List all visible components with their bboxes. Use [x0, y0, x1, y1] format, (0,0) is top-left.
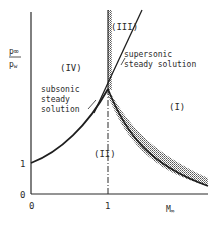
shaded-band-supersonic — [108, 89, 208, 186]
x-tick-zero: 0 — [29, 201, 34, 211]
region-label-III: (III) — [111, 22, 138, 32]
y-tick-zero: 0 — [20, 190, 25, 200]
y-tick-one: 1 — [20, 159, 25, 169]
region-label-II: (II) — [94, 149, 116, 159]
region-label-IV: (IV) — [60, 63, 82, 73]
y-axis-label-denominator: pw — [9, 60, 18, 69]
x-tick-one: 1 — [105, 201, 110, 211]
subsonic-label-line2: steady — [41, 95, 70, 104]
supersonic-label-line1: supersonic — [124, 50, 172, 59]
subsonic-label-line1: subsonic — [41, 85, 80, 94]
y-axis-label-numerator: p∞ — [9, 47, 19, 56]
regime-diagram: p∞ pw 1 0 0 1 M∞ (IV) (III) (II) (I) sub… — [0, 0, 222, 232]
supersonic-label-line2: steady solution — [124, 60, 196, 69]
subsonic-label-line3: solution — [41, 105, 80, 114]
region-label-I: (I) — [169, 102, 185, 112]
x-axis-label: M∞ — [166, 205, 175, 214]
subsonic-leader — [88, 100, 96, 109]
